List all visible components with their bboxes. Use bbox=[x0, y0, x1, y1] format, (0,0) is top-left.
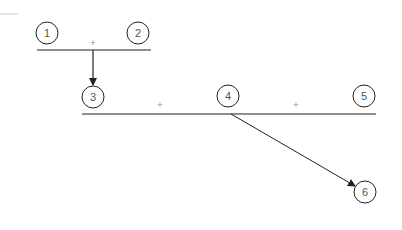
node-4: 4 bbox=[217, 85, 239, 107]
node-5: 5 bbox=[353, 85, 375, 107]
node-label: 2 bbox=[135, 27, 141, 39]
node-6: 6 bbox=[354, 181, 376, 203]
node-3: 3 bbox=[82, 86, 104, 108]
node-label: 3 bbox=[90, 91, 96, 103]
diagram-svg: + + + 1 2 3 4 5 6 bbox=[0, 0, 402, 230]
plus-operator: + bbox=[90, 38, 95, 48]
node-label: 4 bbox=[225, 90, 231, 102]
node-label: 1 bbox=[44, 27, 50, 39]
plus-operator: + bbox=[157, 100, 162, 110]
arrow-4-to-6 bbox=[231, 114, 355, 186]
node-1: 1 bbox=[36, 22, 58, 44]
node-label: 6 bbox=[362, 186, 368, 198]
plus-operator: + bbox=[293, 100, 298, 110]
node-label: 5 bbox=[361, 90, 367, 102]
node-2: 2 bbox=[127, 22, 149, 44]
diagram-canvas: + + + 1 2 3 4 5 6 bbox=[0, 0, 402, 230]
